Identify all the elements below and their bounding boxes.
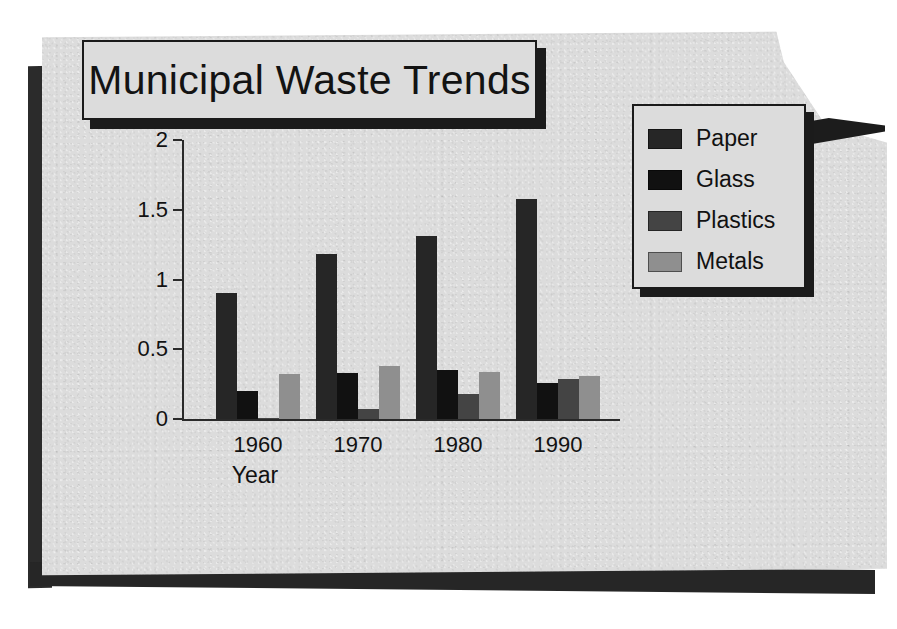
bar-plastics-1970 [358, 409, 379, 419]
chart-legend: PaperGlassPlasticsMetals [632, 104, 806, 289]
legend-item-plastics[interactable]: Plastics [648, 200, 804, 241]
bar-group [516, 199, 606, 419]
bar-plastics-1960 [258, 418, 279, 419]
legend-item-metals[interactable]: Metals [648, 241, 804, 282]
legend-item-glass[interactable]: Glass [648, 159, 804, 200]
legend-swatch-icon [648, 129, 682, 149]
title-box-shadow-right [537, 48, 546, 128]
bar-glass-1980 [437, 370, 458, 419]
title-box: Municipal Waste Trends [82, 40, 537, 120]
y-axis-tick [173, 418, 182, 420]
y-axis-tick-label: 1 [156, 267, 168, 293]
y-axis-line [182, 140, 184, 421]
bar-group [216, 293, 306, 419]
y-axis-tick [173, 279, 182, 281]
legend-shadow-bottom [640, 289, 814, 297]
bar-metals-1990 [579, 376, 600, 419]
legend-swatch-icon [648, 211, 682, 231]
legend-swatch-icon [648, 252, 682, 272]
y-axis-tick [173, 348, 182, 350]
legend-item-label: Glass [696, 166, 755, 193]
x-axis-tick-label: 1960 [234, 432, 283, 458]
bar-paper-1980 [416, 236, 437, 419]
bar-paper-1990 [516, 199, 537, 419]
bar-plastics-1990 [558, 379, 579, 419]
x-axis-tick-label: 1990 [534, 432, 583, 458]
legend-shadow-right [806, 112, 814, 297]
x-axis-tick-label: 1980 [434, 432, 483, 458]
bar-group [316, 254, 406, 419]
bar-metals-1960 [279, 374, 300, 419]
page-title: Municipal Waste Trends [88, 57, 531, 104]
bar-glass-1970 [337, 373, 358, 419]
legend-item-paper[interactable]: Paper [648, 118, 804, 159]
y-axis-tick [173, 139, 182, 141]
bar-metals-1980 [479, 372, 500, 419]
bar-paper-1970 [316, 254, 337, 419]
y-axis-tick-label: 0.5 [137, 336, 168, 362]
plot-area: 00.511.52 1960197019801990 [182, 140, 572, 421]
bar-glass-1990 [537, 383, 558, 419]
bar-paper-1960 [216, 293, 237, 419]
x-axis-line [182, 419, 620, 421]
bar-plastics-1980 [458, 394, 479, 419]
bar-glass-1960 [237, 391, 258, 419]
y-axis-tick [173, 209, 182, 211]
x-axis-tick-label: 1970 [334, 432, 383, 458]
bar-metals-1970 [379, 366, 400, 419]
legend-item-label: Metals [696, 248, 764, 275]
bar-group [416, 236, 506, 419]
x-axis-label: Year [232, 462, 278, 489]
y-axis-tick-label: 0 [156, 406, 168, 432]
legend-item-label: Plastics [696, 207, 775, 234]
legend-swatch-icon [648, 170, 682, 190]
legend-item-label: Paper [696, 125, 757, 152]
y-axis-tick-label: 2 [156, 127, 168, 153]
y-axis-tick-label: 1.5 [137, 197, 168, 223]
